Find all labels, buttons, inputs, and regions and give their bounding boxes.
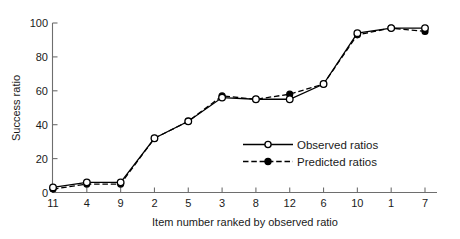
- data-point-observed-7: [422, 25, 429, 32]
- y-axis-ticks: [53, 23, 58, 193]
- line-chart: 0 20 40 60 80 100 Success ratio 11492538…: [0, 0, 460, 239]
- x-tick-label-8: 8: [253, 197, 259, 209]
- x-tick-label-11: 11: [47, 197, 58, 209]
- x-tick-label-10: 10: [351, 197, 363, 209]
- y-tick-label-20: 20: [36, 153, 48, 165]
- chart-container: 0 20 40 60 80 100 Success ratio 11492538…: [0, 0, 460, 239]
- x-tick-label-4: 4: [84, 197, 90, 209]
- x-tick-label-9: 9: [118, 197, 124, 209]
- data-point-observed-4: [84, 179, 91, 186]
- data-point-observed-5: [185, 118, 192, 125]
- x-tick-label-3: 3: [219, 197, 225, 209]
- data-point-observed-3: [219, 94, 226, 101]
- data-point-observed-11: [50, 184, 57, 191]
- data-point-observed-2: [151, 135, 158, 142]
- data-point-observed-1: [388, 25, 395, 32]
- data-point-observed-6: [320, 81, 327, 88]
- x-axis-title: Item number ranked by observed ratio: [152, 216, 338, 228]
- data-point-observed-8: [253, 96, 260, 103]
- y-tick-label-60: 60: [36, 85, 48, 97]
- legend-marker-open-circle-icon: [265, 141, 271, 147]
- x-axis-tick-labels: 114925381261017: [47, 197, 428, 209]
- x-tick-label-6: 6: [320, 197, 326, 209]
- x-tick-label-7: 7: [422, 197, 428, 209]
- legend-label-observed: Observed ratios: [297, 139, 378, 151]
- y-tick-label-40: 40: [36, 119, 48, 131]
- chart-legend: Observed ratios Predicted ratios: [243, 139, 378, 168]
- legend-marker-filled-circle-icon: [265, 158, 271, 164]
- y-axis-title: Success ratio: [10, 75, 22, 141]
- x-axis-ticks: [53, 188, 425, 193]
- y-tick-label-80: 80: [36, 51, 48, 63]
- x-tick-label-1: 1: [388, 197, 394, 209]
- data-point-observed-10: [354, 30, 361, 37]
- x-tick-label-12: 12: [284, 197, 296, 209]
- y-tick-label-100: 100: [30, 17, 48, 29]
- data-point-observed-12: [286, 96, 293, 103]
- x-tick-label-2: 2: [151, 197, 157, 209]
- data-point-observed-9: [117, 179, 124, 186]
- x-tick-label-5: 5: [185, 197, 191, 209]
- legend-label-predicted: Predicted ratios: [297, 156, 377, 168]
